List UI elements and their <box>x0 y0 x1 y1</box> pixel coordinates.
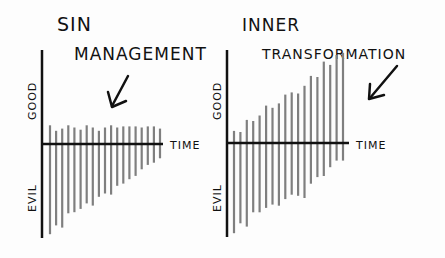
right-arrow-icon <box>369 66 397 99</box>
right-panel: INNER TRANSFORMATION TIME GOOD EVIL <box>211 15 406 237</box>
left-panel: SIN MANAGEMENT TIME GOOD EVIL <box>26 13 207 238</box>
left-x-label: TIME <box>169 139 200 152</box>
right-y-bottom-label: EVIL <box>211 184 224 212</box>
diagram-canvas: SIN MANAGEMENT TIME GOOD EVIL INNER TRAN… <box>0 0 445 258</box>
left-y-top-label: GOOD <box>26 82 39 120</box>
left-title-line1: SIN <box>57 13 92 35</box>
left-arrow-icon <box>108 76 128 107</box>
left-title-line2: MANAGEMENT <box>74 44 207 64</box>
left-bars <box>50 125 160 234</box>
left-y-bottom-label: EVIL <box>26 184 39 212</box>
right-x-label: TIME <box>355 139 386 152</box>
right-y-top-label: GOOD <box>211 82 224 120</box>
right-title-line2: TRANSFORMATION <box>261 46 406 62</box>
right-title-line1: INNER <box>242 15 300 35</box>
